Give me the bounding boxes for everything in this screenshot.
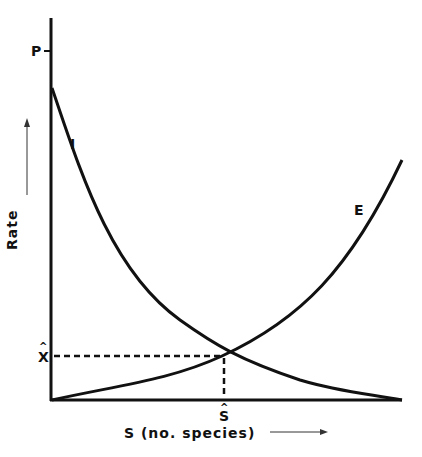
extinction-curve [52, 160, 402, 400]
x-axis-label: S (no. species) [124, 426, 255, 440]
equilibrium-diagram: P I E ^ X ^ S S (no. species) Rate [0, 0, 422, 457]
i-curve-label: I [70, 137, 75, 151]
s-hat-label: S [219, 409, 229, 423]
y-axis-label: Rate [5, 210, 19, 250]
x-hat-label: X [38, 350, 49, 364]
e-curve-label: E [354, 203, 364, 217]
p-label: P [31, 44, 41, 58]
diagram-canvas [0, 0, 422, 457]
s-arrow-icon [320, 429, 328, 435]
rate-arrow-icon [24, 118, 30, 127]
